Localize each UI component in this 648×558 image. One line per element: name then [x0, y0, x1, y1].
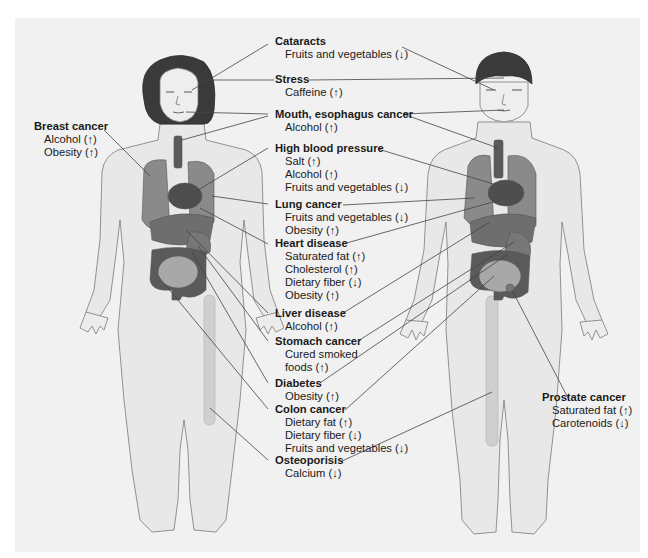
label-item: Obesity (↑)	[34, 146, 108, 159]
label-item: Saturated fat (↑)	[275, 250, 365, 263]
label-item: Obesity (↑)	[275, 390, 339, 403]
label-item: Alcohol (↑)	[34, 133, 108, 146]
label-lung-cancer: Lung cancer Fruits and vegetables (↓) Ob…	[275, 198, 408, 237]
label-title: Liver disease	[275, 307, 346, 320]
label-item: Calcium (↓)	[275, 467, 343, 480]
label-item: Fruits and vegetables (↓)	[275, 48, 408, 61]
label-title: Heart disease	[275, 237, 365, 250]
label-item: Obesity (↑)	[275, 224, 408, 237]
label-item: Alcohol (↑)	[275, 168, 408, 181]
label-title: Lung cancer	[275, 198, 408, 211]
label-item: Caffeine (↑)	[275, 86, 343, 99]
label-breast-cancer: Breast cancer Alcohol (↑) Obesity (↑)	[34, 120, 108, 159]
label-item: Obesity (↑)	[275, 289, 365, 302]
label-osteoporosis: Osteoporisis Calcium (↓)	[275, 454, 343, 480]
man-organs	[464, 140, 536, 300]
label-item: Dietary fiber (↓)	[275, 429, 408, 442]
label-title: Prostate cancer	[542, 391, 632, 404]
label-item: Cholesterol (↑)	[275, 263, 365, 276]
label-title: Colon cancer	[275, 403, 408, 416]
label-item: Dietary fiber (↓)	[275, 276, 365, 289]
label-liver-disease: Liver disease Alcohol (↑)	[275, 307, 346, 333]
label-title: Stress	[275, 73, 343, 86]
label-title: Stomach cancer	[275, 335, 361, 348]
label-heart-disease: Heart disease Saturated fat (↑) Choleste…	[275, 237, 365, 302]
label-stomach-cancer: Stomach cancer Cured smoked foods (↑)	[275, 335, 361, 374]
label-item: Fruits and vegetables (↓)	[275, 181, 408, 194]
label-item: Saturated fat (↑)	[542, 404, 632, 417]
label-high-blood-pressure: High blood pressure Salt (↑) Alcohol (↑)…	[275, 142, 408, 194]
label-item: Dietary fat (↑)	[275, 416, 408, 429]
label-stress: Stress Caffeine (↑)	[275, 73, 343, 99]
label-colon-cancer: Colon cancer Dietary fat (↑) Dietary fib…	[275, 403, 408, 455]
label-title: Breast cancer	[34, 120, 108, 133]
label-item: Alcohol (↑)	[275, 320, 346, 333]
label-item: Carotenoids (↓)	[542, 417, 632, 430]
label-cataracts: Cataracts Fruits and vegetables (↓)	[275, 35, 408, 61]
label-prostate-cancer: Prostate cancer Saturated fat (↑) Carote…	[542, 391, 632, 430]
label-item: Alcohol (↑)	[275, 121, 413, 134]
label-title: High blood pressure	[275, 142, 408, 155]
label-diabetes: Diabetes Obesity (↑)	[275, 377, 339, 403]
label-title: Diabetes	[275, 377, 339, 390]
label-title: Cataracts	[275, 35, 408, 48]
label-mouth-esophagus-cancer: Mouth, esophagus cancer Alcohol (↑)	[275, 108, 413, 134]
label-title: Osteoporisis	[275, 454, 343, 467]
label-item: Cured smoked	[275, 348, 361, 361]
label-item: Salt (↑)	[275, 155, 408, 168]
label-item: foods (↑)	[275, 361, 361, 374]
label-item: Fruits and vegetables (↓)	[275, 211, 408, 224]
label-title: Mouth, esophagus cancer	[275, 108, 413, 121]
